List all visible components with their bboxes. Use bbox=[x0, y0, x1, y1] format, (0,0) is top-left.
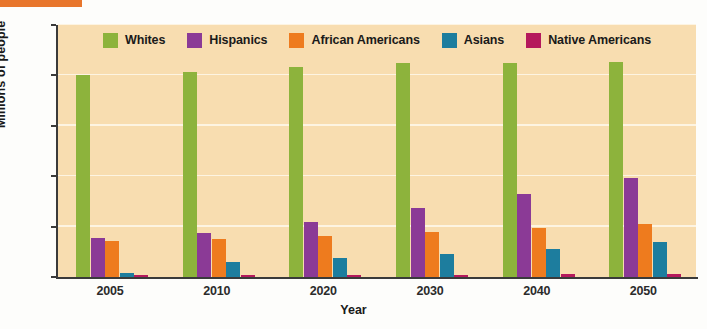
y-axis-label: Millions of people bbox=[0, 21, 8, 128]
bar-hispanics-2050 bbox=[624, 178, 638, 277]
y-tick-mark-250 bbox=[51, 24, 56, 26]
y-tick-mark-200 bbox=[51, 74, 56, 76]
legend-item-african-americans[interactable]: African Americans bbox=[289, 33, 419, 48]
bar-african-americans-2040 bbox=[532, 228, 546, 277]
legend-swatch-icon bbox=[103, 33, 118, 48]
bar-hispanics-2005 bbox=[91, 238, 105, 277]
bar-african-americans-2005 bbox=[105, 241, 119, 277]
bar-african-americans-2020 bbox=[318, 236, 332, 277]
legend-swatch-icon bbox=[289, 33, 304, 48]
legend-label: Asians bbox=[464, 33, 504, 47]
bar-hispanics-2040 bbox=[517, 194, 531, 277]
bar-african-americans-2030 bbox=[425, 232, 439, 277]
bar-whites-2010 bbox=[183, 72, 197, 277]
y-tick-mark-150 bbox=[51, 125, 56, 127]
gridline-50 bbox=[58, 225, 696, 227]
legend-item-whites[interactable]: Whites bbox=[103, 33, 165, 48]
bar-whites-2040 bbox=[503, 63, 517, 277]
gridline-150 bbox=[58, 124, 696, 126]
bar-asians-2010 bbox=[226, 262, 240, 277]
y-tick-mark-50 bbox=[51, 226, 56, 228]
legend-swatch-icon bbox=[442, 33, 457, 48]
bar-hispanics-2010 bbox=[197, 233, 211, 277]
decorative-top-rule bbox=[0, 0, 82, 7]
legend-item-native-americans[interactable]: Native Americans bbox=[526, 33, 651, 48]
bar-african-americans-2010 bbox=[212, 239, 226, 277]
x-tick-label-2005: 2005 bbox=[70, 284, 150, 298]
legend-label: Hispanics bbox=[209, 33, 267, 47]
bar-asians-2020 bbox=[333, 258, 347, 277]
plot-area: WhitesHispanicsAfrican AmericansAsiansNa… bbox=[56, 25, 696, 277]
legend-label: Whites bbox=[125, 33, 165, 47]
bar-asians-2050 bbox=[653, 242, 667, 277]
legend-swatch-icon bbox=[526, 33, 541, 48]
legend-item-hispanics[interactable]: Hispanics bbox=[187, 33, 267, 48]
legend-item-asians[interactable]: Asians bbox=[442, 33, 504, 48]
gridline-200 bbox=[58, 74, 696, 76]
bar-african-americans-2050 bbox=[638, 224, 652, 277]
x-tick-label-2050: 2050 bbox=[603, 284, 683, 298]
bar-hispanics-2030 bbox=[411, 208, 425, 277]
y-tick-mark-100 bbox=[51, 175, 56, 177]
bar-hispanics-2020 bbox=[304, 222, 318, 277]
bar-whites-2030 bbox=[396, 63, 410, 277]
bar-asians-2040 bbox=[546, 249, 560, 277]
bar-whites-2005 bbox=[76, 75, 90, 277]
legend-label: Native Americans bbox=[548, 33, 651, 47]
bar-whites-2020 bbox=[289, 67, 303, 277]
chart-legend: WhitesHispanicsAfrican AmericansAsiansNa… bbox=[58, 25, 696, 55]
legend-label: African Americans bbox=[311, 33, 419, 47]
x-tick-label-2040: 2040 bbox=[497, 284, 577, 298]
x-tick-label-2020: 2020 bbox=[283, 284, 363, 298]
legend-swatch-icon bbox=[187, 33, 202, 48]
bar-whites-2050 bbox=[609, 62, 623, 277]
x-axis-line bbox=[56, 277, 698, 279]
gridline-100 bbox=[58, 175, 696, 177]
bar-asians-2030 bbox=[440, 254, 454, 277]
x-axis-label: Year bbox=[0, 303, 707, 317]
x-tick-label-2030: 2030 bbox=[390, 284, 470, 298]
x-tick-label-2010: 2010 bbox=[177, 284, 257, 298]
bar-chart-figure: Millions of people Year WhitesHispanicsA… bbox=[0, 0, 707, 329]
